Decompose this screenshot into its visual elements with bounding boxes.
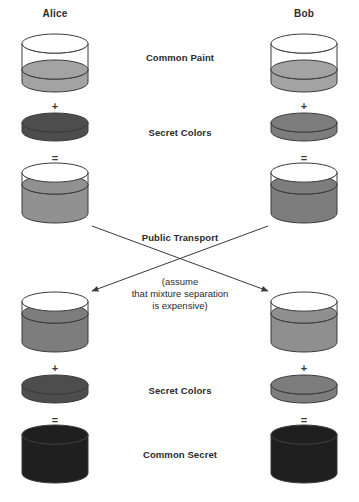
alice-received-mix-jar xyxy=(22,292,88,352)
label-public-transport: Public Transport xyxy=(110,232,250,243)
alice-plus-top: + xyxy=(45,100,65,112)
label-secret-colors-bottom: Secret Colors xyxy=(110,385,250,396)
bob-equals-bottom: = xyxy=(294,414,314,426)
diagram-canvas xyxy=(0,0,359,502)
alice-common-secret-jar xyxy=(22,425,88,483)
bob-secret-color-disc xyxy=(271,113,337,141)
bob-common-paint-jar-rim xyxy=(271,34,337,53)
label-common-secret: Common Secret xyxy=(110,449,250,460)
party-label-bob: Bob xyxy=(274,8,334,19)
bob-plus-bottom: + xyxy=(294,362,314,374)
bob-common-paint-jar-paint-surface xyxy=(271,60,337,79)
alice-secret-color-disc-2 xyxy=(22,375,88,403)
alice-equals-top: = xyxy=(45,152,65,164)
bob-plus-top: + xyxy=(294,100,314,112)
bob-common-paint-jar xyxy=(271,34,337,92)
bob-public-mix-jar xyxy=(271,163,337,223)
alice-secret-color-disc-2-top xyxy=(22,375,88,394)
bob-secret-color-disc-2 xyxy=(271,375,337,403)
bob-common-secret-jar xyxy=(271,425,337,483)
alice-equals-bottom: = xyxy=(45,414,65,426)
alice-secret-color-disc xyxy=(22,113,88,141)
bob-received-mix-jar-rim xyxy=(271,292,337,311)
diffie-hellman-paint-diagram: Alice Bob Common Paint Secret Colors Pub… xyxy=(0,0,359,502)
alice-common-secret-jar-top xyxy=(22,425,88,444)
mixture-separation-note: (assume that mixture separation is expen… xyxy=(100,276,260,312)
alice-common-paint-jar xyxy=(22,34,88,92)
bob-secret-color-disc-2-top xyxy=(271,375,337,394)
party-label-alice: Alice xyxy=(25,8,85,19)
alice-common-paint-jar-paint-surface xyxy=(22,60,88,79)
alice-received-mix-jar-rim xyxy=(22,292,88,311)
note-line-3: is expensive) xyxy=(100,300,260,312)
bob-common-secret-jar-top xyxy=(271,425,337,444)
note-line-2: that mixture separation xyxy=(100,288,260,300)
bob-public-mix-jar-rim xyxy=(271,163,337,182)
alice-plus-bottom: + xyxy=(45,362,65,374)
label-common-paint: Common Paint xyxy=(110,52,250,63)
bob-received-mix-jar xyxy=(271,292,337,352)
alice-secret-color-disc-top xyxy=(22,113,88,132)
note-line-1: (assume xyxy=(100,276,260,288)
alice-common-paint-jar-rim xyxy=(22,34,88,53)
bob-secret-color-disc-top xyxy=(271,113,337,132)
alice-public-mix-jar xyxy=(22,163,88,223)
alice-public-mix-jar-rim xyxy=(22,163,88,182)
label-secret-colors-top: Secret Colors xyxy=(110,127,250,138)
bob-equals-top: = xyxy=(294,152,314,164)
